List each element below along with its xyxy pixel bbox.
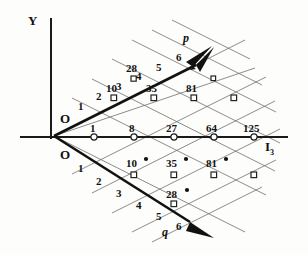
origin-upper-label: O	[60, 112, 70, 125]
value-cube-8: 8	[129, 123, 135, 134]
value-cube-1: 1	[90, 123, 96, 134]
q-axis-label: q	[162, 226, 168, 238]
origin-lower-label: O	[60, 148, 70, 161]
value-cube-64: 64	[206, 123, 217, 134]
value-upper-81: 81	[186, 83, 197, 94]
p-axis-label: p	[183, 32, 189, 44]
value-lower-28: 28	[166, 189, 177, 200]
node-markers-lower-2	[171, 201, 177, 207]
value-lower-10: 10	[126, 158, 137, 169]
figure-canvas: Y I3 p q O O 1 2 3 4 5 6 1 2 3 4 5 6 1 8…	[0, 0, 308, 255]
value-upper-35: 35	[146, 83, 157, 94]
y-axis-label: Y	[28, 14, 37, 27]
p-tick-1: 1	[78, 101, 84, 112]
value-cube-27: 27	[166, 123, 177, 134]
i3-axis-subscript: 3	[270, 148, 274, 157]
value-cube-125: 125	[243, 123, 260, 134]
q-tick-2: 2	[96, 176, 102, 187]
value-upper-28: 28	[126, 63, 137, 74]
q-tick-4: 4	[136, 200, 142, 211]
value-lower-81: 81	[206, 158, 217, 169]
value-lower-35: 35	[166, 158, 177, 169]
q-tick-5: 5	[156, 211, 162, 222]
value-upper-10: 10	[106, 83, 117, 94]
q-tick-3: 3	[116, 188, 122, 199]
node-markers-lower-1	[131, 172, 257, 178]
q-arrowhead-fill	[186, 222, 214, 238]
i3-axis-label: I3	[265, 140, 274, 157]
lattice-drawing	[0, 0, 308, 255]
p-tick-5: 5	[156, 62, 162, 73]
q-tick-1: 1	[78, 163, 84, 174]
p-tick-2: 2	[96, 91, 102, 102]
p-tick-6: 6	[176, 52, 182, 63]
q-tick-6: 6	[176, 221, 182, 232]
